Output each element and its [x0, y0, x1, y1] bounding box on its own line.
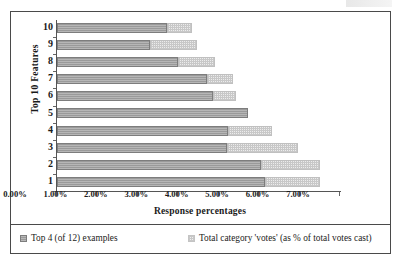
bar-segment-top4[interactable]	[57, 23, 167, 33]
bar-stack-category-3[interactable]	[57, 143, 298, 153]
bar-segment-top4[interactable]	[57, 160, 261, 170]
legend-label-1: Top 4 (of 12) examples	[31, 233, 118, 243]
bar-segment-top4[interactable]	[57, 91, 213, 101]
bar-stack-category-5[interactable]	[57, 108, 248, 118]
chart-figure-frame: Top 10 Features 10987654321 0.00%1.00%2.…	[10, 11, 391, 254]
y-tick-mark	[53, 123, 56, 124]
bar-segment-top4[interactable]	[57, 40, 150, 50]
y-tick-label-8: 8	[29, 56, 53, 66]
bar-row	[57, 157, 341, 174]
y-tick-label-2: 2	[29, 159, 53, 169]
legend-items: Top 4 (of 12) examplesTotal category 'vo…	[20, 233, 384, 243]
light-dotted-swatch	[188, 235, 195, 242]
legend-item-1[interactable]: Top 4 (of 12) examples	[20, 233, 188, 243]
bar-segment-total-votes[interactable]	[265, 177, 320, 187]
bar-row	[57, 105, 341, 122]
x-tick-mark	[339, 192, 340, 196]
y-tick-label-5: 5	[29, 108, 53, 118]
bar-segment-top4[interactable]	[57, 74, 207, 84]
legend-label-2: Total category 'votes' (as % of total vo…	[199, 233, 372, 243]
y-tick-label-6: 6	[29, 90, 53, 100]
bar-row	[57, 54, 341, 71]
x-tick-label-4: 4.00%	[155, 189, 199, 200]
x-tick-label-2: 2.00%	[74, 189, 118, 200]
bar-stack-category-6[interactable]	[57, 91, 236, 101]
bar-row	[57, 20, 341, 37]
bar-row	[57, 71, 341, 88]
bar-series-group	[57, 20, 341, 191]
bar-segment-total-votes[interactable]	[207, 74, 234, 84]
bar-segment-total-votes[interactable]	[228, 126, 271, 136]
plot-area: 10987654321	[56, 20, 356, 192]
bar-stack-category-10[interactable]	[57, 23, 192, 33]
y-tick-mark	[53, 140, 56, 141]
y-tick-label-1: 1	[29, 176, 53, 186]
bar-stack-category-7[interactable]	[57, 74, 233, 84]
y-axis-ticks: 10987654321	[29, 20, 53, 191]
x-axis-tick-labels: 0.00%1.00%2.00%3.00%4.00%5.00%6.00%7.00%	[0, 189, 315, 201]
bar-stack-category-1[interactable]	[57, 177, 320, 187]
bar-segment-total-votes[interactable]	[213, 91, 236, 101]
x-tick-label-3: 3.00%	[114, 189, 158, 200]
bar-segment-total-votes[interactable]	[261, 160, 320, 170]
y-tick-mark	[53, 174, 56, 175]
bar-stack-category-9[interactable]	[57, 40, 197, 50]
chart-screenshot: Top 10 Features 10987654321 0.00%1.00%2.…	[0, 0, 404, 278]
bar-segment-total-votes[interactable]	[178, 57, 214, 67]
y-tick-mark	[53, 54, 56, 55]
y-tick-mark	[53, 37, 56, 38]
bar-row	[57, 123, 341, 140]
bar-segment-top4[interactable]	[57, 57, 178, 67]
bar-stack-category-4[interactable]	[57, 126, 272, 136]
y-tick-label-3: 3	[29, 142, 53, 152]
y-tick-mark	[53, 88, 56, 89]
x-axis-title: Response percentages	[56, 206, 344, 216]
x-tick-label-0: 0.00%	[0, 189, 37, 200]
x-tick-label-7: 7.00%	[276, 189, 320, 200]
y-tick-mark	[53, 106, 56, 107]
bar-segment-total-votes[interactable]	[227, 143, 299, 153]
bar-row	[57, 37, 341, 54]
bar-segment-total-votes[interactable]	[150, 40, 197, 50]
dark-gray-swatch	[20, 235, 27, 242]
bar-segment-top4[interactable]	[57, 177, 265, 187]
y-tick-label-4: 4	[29, 125, 53, 135]
bar-segment-total-votes[interactable]	[167, 23, 192, 33]
bar-stack-category-2[interactable]	[57, 160, 320, 170]
chart-legend: Top 4 (of 12) examplesTotal category 'vo…	[11, 224, 390, 255]
x-tick-label-6: 6.00%	[236, 189, 280, 200]
x-tick-label-5: 5.00%	[195, 189, 239, 200]
y-tick-label-7: 7	[29, 73, 53, 83]
bar-segment-top4[interactable]	[57, 143, 227, 153]
plot-wrapper: Top 10 Features 10987654321 0.00%1.00%2.…	[11, 12, 390, 207]
legend-item-2[interactable]: Total category 'votes' (as % of total vo…	[188, 233, 372, 243]
bar-row	[57, 140, 341, 157]
scan-artifact	[346, 0, 392, 7]
bar-stack-category-8[interactable]	[57, 57, 215, 67]
x-tick-label-1: 1.00%	[33, 189, 77, 200]
y-tick-label-9: 9	[29, 39, 53, 49]
bar-row	[57, 88, 341, 105]
bar-segment-top4[interactable]	[57, 126, 228, 136]
y-tick-label-10: 10	[29, 22, 53, 32]
y-tick-mark	[53, 71, 56, 72]
bar-segment-top4[interactable]	[57, 108, 248, 118]
y-tick-mark	[53, 157, 56, 158]
